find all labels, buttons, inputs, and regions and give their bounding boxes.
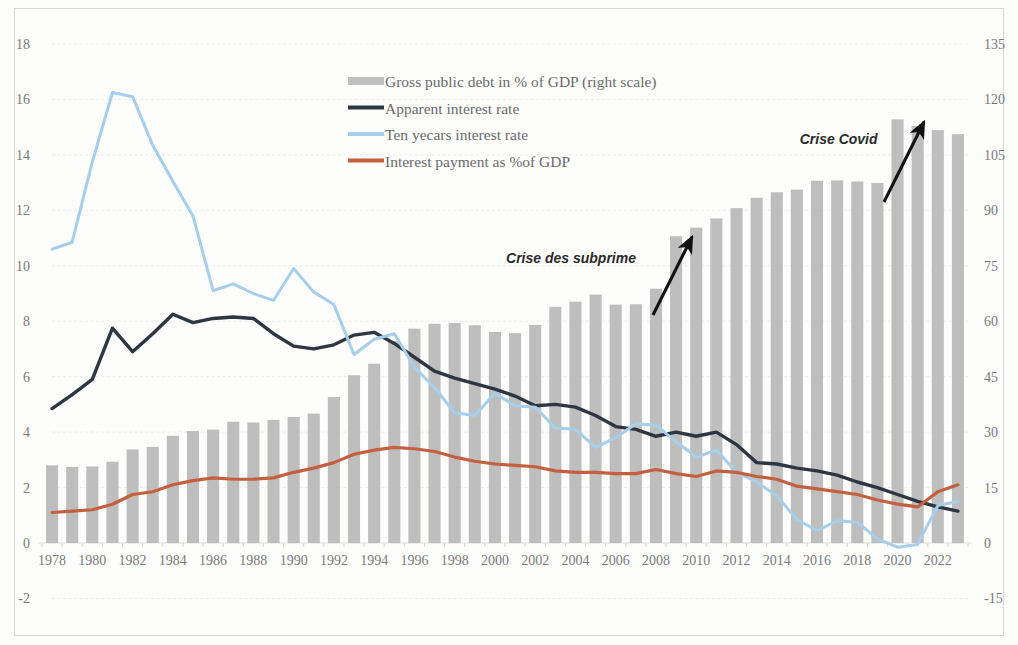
- x-axis-tick-2018: 2018: [843, 553, 871, 568]
- bar-1983: [147, 447, 159, 543]
- x-axis-tick-2006: 2006: [602, 553, 630, 568]
- right-axis-tick-0: 0: [984, 536, 991, 551]
- bar-1979: [66, 467, 78, 543]
- bar-2015: [791, 190, 803, 543]
- bar-2009: [670, 236, 682, 543]
- right-axis-tick-90: 90: [984, 203, 998, 218]
- x-axis-tick-2000: 2000: [481, 553, 509, 568]
- right-axis-tick-45: 45: [984, 370, 998, 385]
- bar-1991: [308, 414, 320, 543]
- x-axis-labels: 1978198019821984198619881990199219941996…: [38, 553, 952, 568]
- x-axis-tick-1988: 1988: [239, 553, 267, 568]
- bar-1999: [469, 325, 481, 543]
- right-axis-tick-15: 15: [984, 481, 998, 496]
- left-axis-tick-8: 8: [23, 314, 30, 329]
- left-axis-labels: -2024681012141618: [16, 37, 30, 606]
- x-axis-tick-2010: 2010: [682, 553, 710, 568]
- bar-2013: [751, 198, 763, 543]
- annotation-label-crise-covid: Crise Covid: [800, 131, 878, 147]
- x-axis-tick-1998: 1998: [441, 553, 469, 568]
- bar-1997: [429, 324, 441, 543]
- x-axis-tick-1984: 1984: [159, 553, 187, 568]
- left-axis-tick-10: 10: [16, 259, 30, 274]
- bar-1993: [348, 375, 360, 543]
- right-axis-tick-120: 120: [984, 92, 1005, 107]
- x-axis-tick-2008: 2008: [642, 553, 670, 568]
- x-axis-tick-2012: 2012: [723, 553, 751, 568]
- bar-1992: [328, 397, 340, 543]
- legend-label-interest-payment-as-of-gdp: Interest payment as %of GDP: [385, 153, 570, 170]
- x-axis-tick-1996: 1996: [400, 553, 428, 568]
- chart-canvas: -2024681012141618-1501530456075901051201…: [0, 0, 1018, 645]
- bar-1989: [267, 420, 279, 543]
- left-axis-tick-2: 2: [23, 481, 30, 496]
- right-axis-labels: -150153045607590105120135: [984, 37, 1005, 606]
- x-axis-tick-1994: 1994: [360, 553, 388, 568]
- bar-1998: [449, 323, 461, 543]
- left-axis-tick-14: 14: [16, 148, 30, 163]
- bar-2001: [509, 333, 521, 543]
- bar-1980: [86, 466, 98, 543]
- bar-2014: [771, 192, 783, 543]
- x-tickmarks-group: [42, 543, 968, 547]
- bar-2010: [690, 228, 702, 543]
- left-axis-tick-0: 0: [23, 536, 30, 551]
- legend-label-gross-public-debt-in-of-gdp-right-scale: Gross public debt in % of GDP (right sca…: [385, 73, 657, 91]
- right-axis-tick-135: 135: [984, 37, 1005, 52]
- right-axis-tick-105: 105: [984, 148, 1005, 163]
- bar-1990: [288, 417, 300, 543]
- legend-label-ten-yecars-interest-rate: Ten yecars interest rate: [385, 126, 528, 143]
- bar-1985: [187, 431, 199, 543]
- x-axis-tick-2004: 2004: [561, 553, 589, 568]
- x-axis-tick-1980: 1980: [78, 553, 106, 568]
- x-axis-tick-1986: 1986: [199, 553, 227, 568]
- left-axis-tick-12: 12: [16, 203, 30, 218]
- x-axis-tick-1992: 1992: [320, 553, 348, 568]
- bar-1987: [227, 422, 239, 543]
- x-axis-tick-1982: 1982: [119, 553, 147, 568]
- bar-2004: [569, 302, 581, 543]
- bar-2012: [730, 208, 742, 543]
- bar-2022: [932, 130, 944, 543]
- x-axis-tick-1978: 1978: [38, 553, 66, 568]
- left-axis-tick-16: 16: [16, 92, 30, 107]
- left-axis-tick-4: 4: [23, 425, 30, 440]
- x-axis-tick-2016: 2016: [803, 553, 831, 568]
- right-axis-tick--15: -15: [984, 591, 1003, 606]
- x-axis-tick-1990: 1990: [280, 553, 308, 568]
- right-axis-tick-30: 30: [984, 425, 998, 440]
- bar-2008: [650, 289, 662, 543]
- bar-1986: [207, 430, 219, 543]
- right-axis-tick-75: 75: [984, 259, 998, 274]
- x-axis-tick-2002: 2002: [521, 553, 549, 568]
- bar-2017: [831, 180, 843, 543]
- legend-label-apparent-interest-rate: Apparent interest rate: [385, 100, 519, 117]
- x-axis-tick-2014: 2014: [763, 553, 791, 568]
- legend-swatch-gross-public-debt-in-of-gdp-right-scale: [348, 77, 384, 85]
- x-axis-tick-2020: 2020: [884, 553, 912, 568]
- left-axis-tick-18: 18: [16, 37, 30, 52]
- bar-2011: [710, 218, 722, 543]
- left-axis-tick-6: 6: [23, 370, 30, 385]
- left-axis-tick--2: -2: [18, 591, 30, 606]
- annotation-label-crise-des-subprime: Crise des subprime: [506, 250, 636, 266]
- bar-2021: [912, 126, 924, 543]
- bar-1978: [46, 465, 58, 543]
- bar-1994: [368, 364, 380, 543]
- bar-1988: [247, 423, 259, 544]
- bar-2002: [529, 325, 541, 543]
- bars-group: [46, 119, 964, 543]
- bar-1995: [388, 341, 400, 543]
- bar-2000: [489, 332, 501, 543]
- chart-figure: -2024681012141618-1501530456075901051201…: [0, 0, 1018, 645]
- bar-2018: [851, 182, 863, 544]
- bar-1984: [167, 436, 179, 543]
- bar-2023: [952, 134, 964, 543]
- right-axis-tick-60: 60: [984, 314, 998, 329]
- x-axis-tick-2022: 2022: [924, 553, 952, 568]
